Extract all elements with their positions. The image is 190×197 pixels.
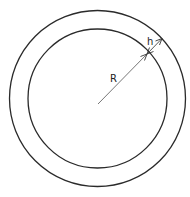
outer-circle	[10, 11, 186, 187]
thickness-label: h	[147, 36, 153, 47]
inner-circle	[28, 29, 167, 168]
radius-line	[98, 54, 147, 104]
ring-diagram: R h	[0, 0, 190, 197]
radius-label: R	[110, 73, 117, 84]
